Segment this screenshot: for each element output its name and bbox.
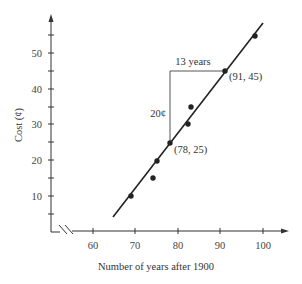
y-axis-arrow-icon [49, 14, 54, 22]
data-point [252, 33, 257, 38]
y-axis: 50 40 30 20 10 Cost (¢) [13, 14, 54, 232]
data-point [128, 193, 133, 198]
data-point [222, 68, 227, 73]
point-label-a: (78, 25) [174, 144, 208, 156]
scatter-chart: 50 40 30 20 10 Cost (¢) 60 70 80 90 100 … [0, 0, 302, 284]
y-tick-label: 20 [32, 155, 43, 166]
y-tick-label: 10 [32, 191, 43, 202]
fitted-line [113, 23, 263, 217]
y-tick-label: 30 [32, 119, 43, 130]
data-point [154, 158, 159, 163]
x-axis: 60 70 80 90 100 Number of years after 19… [51, 225, 289, 272]
run-label: 13 years [175, 56, 210, 67]
y-axis-title: Cost (¢) [13, 107, 25, 142]
x-tick-label: 90 [215, 240, 226, 251]
x-tick-label: 80 [173, 240, 184, 251]
y-tick-label: 50 [32, 48, 43, 59]
point-label-b: (91, 45) [229, 71, 263, 83]
data-point [185, 121, 190, 126]
data-point [188, 104, 193, 109]
data-point [167, 140, 172, 145]
x-tick-label: 60 [88, 240, 99, 251]
x-tick-label: 100 [255, 240, 271, 251]
axis-break-icon [59, 225, 73, 234]
x-axis-arrow-icon [281, 229, 289, 234]
x-axis-title: Number of years after 1900 [98, 261, 214, 272]
rise-label: 20¢ [150, 108, 166, 119]
data-point [150, 175, 155, 180]
x-tick-label: 70 [130, 240, 141, 251]
y-tick-label: 40 [32, 84, 43, 95]
